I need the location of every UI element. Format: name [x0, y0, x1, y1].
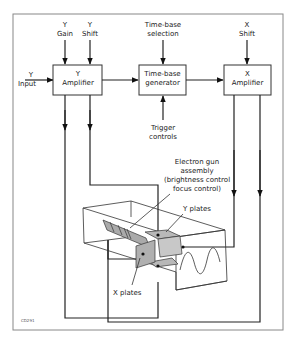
figure-code: CD291: [21, 318, 35, 323]
y-amplifier-label-2: Amplifier: [62, 79, 94, 87]
x-amplifier-label-2: Amplifier: [232, 79, 264, 87]
x-plates-label: X plates: [113, 289, 142, 297]
y-plates-label: Y plates: [182, 205, 211, 213]
electron-gun-label-2: assembly: [180, 167, 213, 175]
y-amplifier-label-1: Y: [75, 70, 81, 78]
y-input-label-2: Input: [18, 80, 36, 88]
y-input-label-1: Y: [28, 71, 34, 79]
timebase-generator-label-1: Time-base: [143, 70, 180, 78]
x-amplifier-label-1: X: [245, 70, 250, 78]
x-shift-label-2: Shift: [239, 30, 255, 38]
timebase-selection-label-2: selection: [147, 30, 178, 38]
y-shift-label-2: Shift: [82, 30, 98, 38]
y-gain-label-2: Gain: [57, 30, 73, 38]
electron-gun-label-4: focus control): [173, 185, 221, 193]
timebase-selection-label-1: Time-base: [144, 21, 181, 29]
electron-gun-label-1: Electron gun: [175, 158, 219, 166]
trigger-label-1: Trigger: [150, 124, 175, 132]
x-shift-label-1: X: [245, 21, 250, 29]
y-gain-label-1: Y: [62, 21, 68, 29]
electron-gun-label-3: (brightness control: [164, 176, 230, 184]
oscilloscope-diagram: Y Gain Y Shift Y Input Y Amplifier Time-…: [0, 0, 291, 341]
trigger-label-2: controls: [149, 133, 177, 141]
timebase-generator-label-2: generator: [145, 79, 180, 87]
outer-frame: [13, 14, 283, 330]
y-shift-label-1: Y: [87, 21, 93, 29]
